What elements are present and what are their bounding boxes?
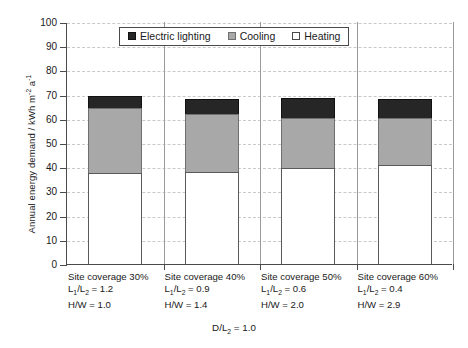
category-coverage-label: Site coverage 30% [68, 271, 149, 283]
gray-square-icon [228, 32, 236, 40]
stacked-bar[interactable] [378, 99, 432, 264]
x-axis-note-prefix: D/L [212, 322, 227, 333]
bar-segment-cooling[interactable] [281, 118, 335, 169]
y-axis-title-mid: a [26, 81, 37, 89]
category-hw-label: H/W = 1.0 [68, 299, 149, 311]
bar-segment-cooling[interactable] [378, 118, 432, 165]
category-ratio-label: L1/L2 = 0.6 [261, 283, 342, 299]
category-hw-label: H/W = 2.9 [358, 299, 439, 311]
y-axis-tick [60, 265, 67, 266]
x-axis-note-value: = 1.0 [231, 322, 256, 333]
stacked-bar[interactable] [185, 99, 239, 264]
category-coverage-label: Site coverage 50% [261, 271, 342, 283]
y-axis-tick-label: 100 [23, 18, 57, 28]
bar-slot [164, 23, 261, 264]
bar-segment-heating[interactable] [185, 172, 239, 264]
bars-layer [67, 23, 452, 264]
bar-slot [260, 23, 357, 264]
category-hw-label: H/W = 1.4 [165, 299, 246, 311]
category-coverage-label: Site coverage 60% [358, 271, 439, 283]
category-hw-label: H/W = 2.0 [261, 299, 342, 311]
y-axis-tick [60, 96, 67, 97]
stacked-bar[interactable] [88, 96, 142, 264]
stacked-bar[interactable] [281, 98, 335, 264]
y-axis-tick-label: 40 [23, 163, 57, 173]
x-axis-category-labels: Site coverage 30%L1/L2 = 1.2H/W = 1.0Sit… [66, 271, 452, 319]
y-axis-tick [60, 120, 67, 121]
y-axis-tick-label: 50 [23, 139, 57, 149]
bar-slot [67, 23, 164, 264]
legend-label-electric-lighting: Electric lighting [140, 30, 211, 42]
legend-item-cooling: Cooling [228, 30, 276, 42]
x-axis-tick [357, 264, 358, 270]
y-axis-tick [60, 144, 67, 145]
white-square-icon [292, 32, 300, 40]
bar-segment-electric-lighting[interactable] [185, 99, 239, 114]
bar-segment-heating[interactable] [88, 173, 142, 264]
y-axis-tick [60, 23, 67, 24]
bar-segment-heating[interactable] [378, 165, 432, 264]
y-axis-tick [60, 192, 67, 193]
bar-slot [357, 23, 454, 264]
x-axis-separator [453, 22, 454, 264]
y-axis-tick-label: 80 [23, 66, 57, 76]
x-axis-note: D/L2 = 1.0 [0, 322, 468, 335]
category-coverage-label: Site coverage 40% [165, 271, 246, 283]
category-ratio-label: L1/L2 = 0.9 [165, 283, 246, 299]
bar-segment-cooling[interactable] [88, 108, 142, 173]
legend-label-heating: Heating [304, 30, 340, 42]
y-axis-tick-label: 20 [23, 212, 57, 222]
y-axis-tick [60, 168, 67, 169]
y-axis-tick-label: 10 [23, 236, 57, 246]
category-label-group: Site coverage 50%L1/L2 = 0.6H/W = 2.0 [261, 271, 342, 312]
category-ratio-label: L1/L2 = 0.4 [358, 283, 439, 299]
x-axis-tick [164, 264, 165, 270]
plot-area: 0102030405060708090100 [66, 23, 452, 265]
category-ratio-label: L1/L2 = 1.2 [68, 283, 149, 299]
bar-segment-electric-lighting[interactable] [378, 99, 432, 117]
x-axis-tick [453, 264, 454, 270]
bar-segment-heating[interactable] [281, 168, 335, 264]
black-square-icon [128, 32, 136, 40]
category-label-group: Site coverage 30%L1/L2 = 1.2H/W = 1.0 [68, 271, 149, 312]
bar-segment-electric-lighting[interactable] [88, 96, 142, 108]
y-axis-tick-label: 30 [23, 187, 57, 197]
category-label-group: Site coverage 60%L1/L2 = 0.4H/W = 2.9 [358, 271, 439, 312]
legend-item-heating: Heating [292, 30, 340, 42]
y-axis-tick [60, 241, 67, 242]
legend-label-cooling: Cooling [240, 30, 276, 42]
y-axis-tick [60, 47, 67, 48]
x-axis-tick [260, 264, 261, 270]
y-axis-tick-label: 0 [23, 260, 57, 270]
y-axis-tick-label: 60 [23, 115, 57, 125]
chart-figure: Annual energy demand / kWh m-2 a-1 01020… [0, 0, 468, 348]
bar-segment-cooling[interactable] [185, 114, 239, 172]
bar-segment-electric-lighting[interactable] [281, 98, 335, 117]
chart-legend: Electric lighting Cooling Heating [119, 27, 349, 46]
y-axis-tick-label: 90 [23, 42, 57, 52]
y-axis-tick [60, 71, 67, 72]
y-axis-tick-label: 70 [23, 91, 57, 101]
category-label-group: Site coverage 40%L1/L2 = 0.9H/W = 1.4 [165, 271, 246, 312]
legend-item-electric-lighting: Electric lighting [128, 30, 211, 42]
y-axis-tick [60, 217, 67, 218]
